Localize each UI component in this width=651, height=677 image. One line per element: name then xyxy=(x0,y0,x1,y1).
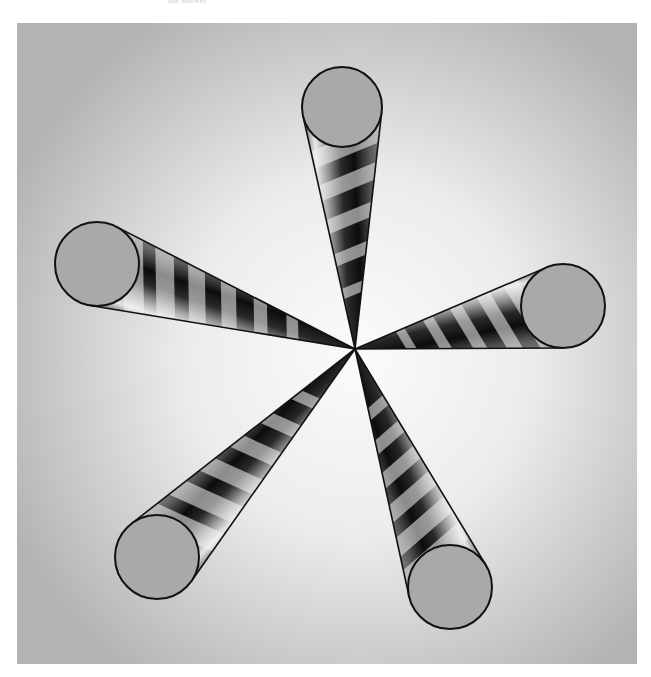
cone-base-cap xyxy=(408,545,492,629)
cone-base-cap xyxy=(302,67,382,147)
cone-base-cap xyxy=(55,222,139,306)
cones-illustration xyxy=(0,0,651,677)
cone-base-cap xyxy=(115,515,199,599)
cone-base-cap xyxy=(521,264,605,348)
